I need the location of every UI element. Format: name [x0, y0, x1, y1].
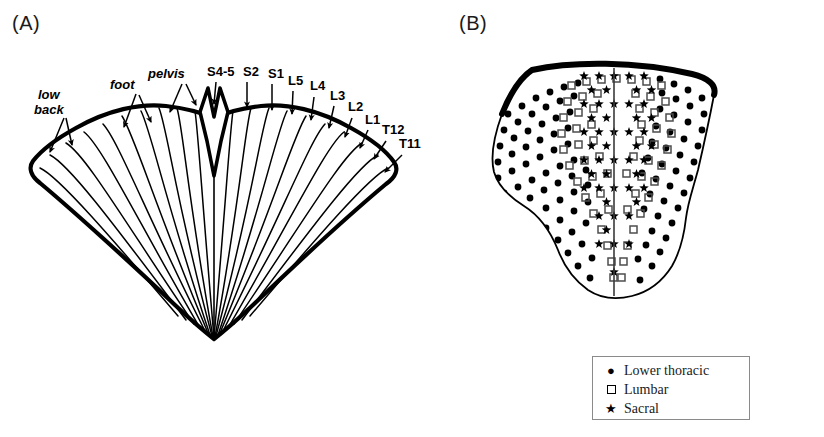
label-pelvis: pelvis [147, 66, 185, 81]
label-l4: L4 [310, 78, 326, 93]
label-t11: T11 [399, 136, 421, 151]
legend-box: ● Lower thoracic Lumbar ★ Sacral [592, 356, 750, 420]
label-low-back-line2: back [34, 102, 64, 117]
label-s2: S2 [243, 64, 259, 79]
figure-root: (A) (B) [0, 0, 824, 437]
legend-label-lower-thoracic: Lower thoracic [619, 363, 709, 379]
panel-b-label: (B) [459, 12, 487, 35]
label-s4-5: S4-5 [207, 64, 234, 79]
panel-b-diagram [440, 40, 780, 340]
legend-list: ● Lower thoracic Lumbar ★ Sacral [603, 361, 709, 418]
legend-item-lower-thoracic: ● Lower thoracic [603, 361, 709, 380]
legend-item-lumbar: Lumbar [603, 380, 709, 399]
filled-circle-icon: ● [603, 364, 619, 377]
panel-b-fill [492, 64, 714, 298]
panel-b-body [492, 64, 714, 298]
panel-a-body: low back foot pelvis S4-5 S2 S1 L5 L4 L3… [31, 64, 421, 339]
label-low-back-line1: low [38, 87, 61, 102]
label-l1: L1 [365, 112, 380, 127]
label-l2: L2 [348, 99, 363, 114]
legend-item-sacral: ★ Sacral [603, 399, 709, 418]
open-square-icon [603, 383, 619, 396]
label-foot: foot [110, 77, 135, 92]
star-icon: ★ [603, 402, 619, 415]
label-s1: S1 [268, 66, 284, 81]
panel-a-diagram: low back foot pelvis S4-5 S2 S1 L5 L4 L3… [0, 0, 440, 360]
label-t12: T12 [382, 122, 404, 137]
legend-label-sacral: Sacral [619, 401, 659, 417]
legend-label-lumbar: Lumbar [619, 382, 668, 398]
label-l3: L3 [330, 88, 345, 103]
label-l5: L5 [288, 73, 303, 88]
